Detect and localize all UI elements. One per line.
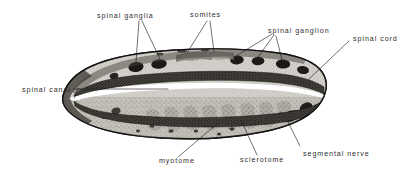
anatomical-diagram: spinal ganglia somites spinal ganglion s… bbox=[0, 0, 418, 178]
label-somites: somites bbox=[190, 11, 221, 19]
leader-somites-b bbox=[210, 21, 214, 52]
leader-somites-a bbox=[187, 21, 207, 53]
leader-spinal-cord bbox=[309, 41, 349, 79]
label-myotome: myotome bbox=[159, 157, 195, 165]
label-spinal-ganglion: spinal ganglion bbox=[268, 27, 330, 35]
label-spinal-ganglia: spinal ganglia bbox=[97, 12, 154, 20]
leader-segmental-nerve bbox=[288, 122, 300, 146]
label-segmental-nerve: segmental nerve bbox=[303, 150, 370, 158]
label-sclerotome: sclerotome bbox=[240, 156, 284, 164]
label-spinal-cord: spinal cord bbox=[353, 35, 398, 43]
label-spinal-canal: spinal canal bbox=[22, 86, 71, 94]
